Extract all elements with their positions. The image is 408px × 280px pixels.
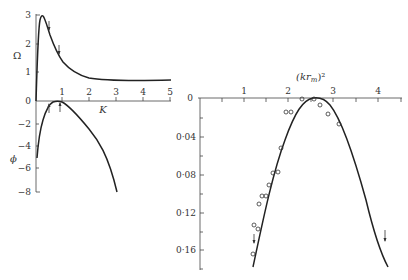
omega-tick-2: 2 [25, 39, 31, 49]
right-x-tick-1: 1 [241, 86, 247, 96]
right-x-tick-4: 4 [375, 86, 381, 96]
phi-axis-label: ϕ [10, 153, 17, 164]
right-arrow-left [253, 234, 256, 244]
right-arrow-right [384, 230, 387, 242]
phi-panel: −2 −4 −6 −8 ϕ [10, 101, 117, 197]
omega-tick-1: 1 [25, 67, 31, 77]
figure-canvas: 3 2 1 0 1 2 3 4 5 Ω K −2 −4 −6 −8 ϕ [0, 0, 408, 280]
omega-tick-0: 0 [25, 96, 31, 106]
phi-tick-m4: −4 [18, 141, 32, 151]
omega-panel: 3 2 1 0 1 2 3 4 5 Ω K [13, 10, 173, 115]
omega-curve [36, 16, 171, 101]
phi-tick-m6: −6 [18, 163, 32, 173]
theory-curve [253, 98, 388, 267]
phi-tick-m2: −2 [18, 119, 31, 129]
right-panel: 1 2 3 4 0 0·04 0·08 0·12 0·16 (krm)² [176, 71, 402, 270]
k-tick-3: 3 [113, 87, 119, 97]
right-x-tick-2: 2 [285, 86, 291, 96]
right-y-tick-0: 0 [187, 93, 193, 103]
right-y-tick-008: 0·08 [176, 170, 196, 180]
omega-tick-3: 3 [25, 10, 31, 20]
experimental-points [251, 97, 341, 256]
k-tick-4: 4 [140, 87, 146, 97]
right-x-axis-label: (krm)² [296, 71, 325, 84]
k-tick-2: 2 [86, 87, 92, 97]
right-x-tick-3: 3 [330, 86, 336, 96]
right-y-tick-004: 0·04 [176, 132, 196, 142]
k-tick-5: 5 [167, 87, 173, 97]
right-y-tick-016: 0·16 [176, 245, 196, 255]
phi-tick-m8: −8 [18, 187, 32, 197]
k-tick-1: 1 [59, 87, 65, 97]
phi-arrow-2 [59, 102, 62, 112]
k-axis-label: K [98, 104, 107, 115]
right-y-tick-012: 0·12 [176, 208, 196, 218]
omega-axis-label: Ω [13, 50, 21, 61]
